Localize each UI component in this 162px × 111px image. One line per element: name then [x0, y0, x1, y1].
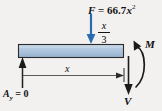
length-dimension-label: x — [65, 64, 69, 74]
reaction-equals: = 0 — [13, 88, 29, 99]
dimension-line-x — [23, 68, 125, 82]
moment-arrow — [134, 41, 145, 88]
force-equation-label: F = 66.7x2 — [88, 4, 135, 16]
centroid-numerator: x — [97, 21, 111, 31]
moment-label: M — [145, 39, 155, 50]
applied-force-arrow — [87, 14, 96, 44]
free-body-diagram: F = 66.7x2 x 3 x Ay = 0 M V — [0, 0, 162, 111]
reaction-symbol: A — [3, 88, 10, 99]
centroid-distance-label: x 3 — [97, 21, 111, 45]
shear-force-arrow — [124, 56, 132, 95]
shear-label: V — [124, 96, 131, 107]
beam-segment — [19, 45, 124, 58]
centroid-denominator: 3 — [97, 34, 111, 45]
force-equals: = 66.7 — [95, 4, 126, 16]
force-exponent: 2 — [132, 3, 136, 11]
reaction-label: Ay = 0 — [3, 89, 28, 102]
fraction-bar — [98, 32, 110, 33]
